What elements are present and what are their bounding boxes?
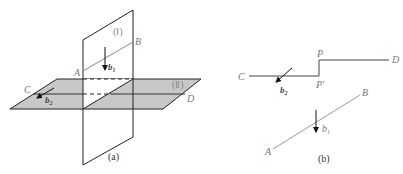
- label-point-p: P: [316, 48, 323, 59]
- caption-b: (b): [318, 153, 330, 165]
- label-point-d: D: [391, 54, 400, 65]
- caption-a: (a): [108, 151, 119, 163]
- label-plane-2: (Ⅱ): [172, 79, 184, 91]
- label-point-b: B: [135, 36, 141, 47]
- line-cd-stepped: [249, 60, 389, 76]
- figure-b: C D P P′ A B b2 b1 (b): [238, 48, 400, 165]
- label-point-b: B: [362, 87, 368, 98]
- figure-a: (Ⅰ) (Ⅱ) A B C D b1 b2 (a): [10, 10, 201, 165]
- label-plane-1: (Ⅰ): [113, 26, 123, 38]
- label-point-p-prime: P′: [315, 79, 325, 90]
- label-point-a: A: [264, 146, 272, 157]
- label-point-d: D: [186, 93, 195, 104]
- label-point-a: A: [73, 67, 81, 78]
- vector-b2-arrow: [276, 68, 292, 82]
- diagram-canvas: (Ⅰ) (Ⅱ) A B C D b1 b2 (a) C D P P′ A B b…: [0, 0, 403, 174]
- label-vector-b2: b2: [280, 85, 288, 96]
- label-point-c: C: [24, 84, 31, 95]
- label-vector-b1: b1: [322, 123, 330, 135]
- label-vector-b1: b1: [108, 62, 116, 73]
- label-point-c: C: [238, 71, 245, 82]
